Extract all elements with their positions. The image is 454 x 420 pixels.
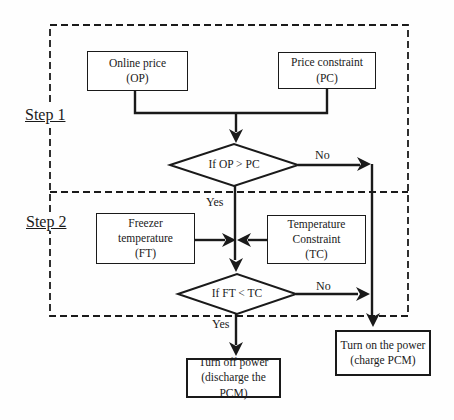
arrowhead-into-decision2 (229, 258, 243, 272)
freezer-temperature-box: Freezer temperature (FT) (96, 213, 195, 264)
yes-label-decision1: Yes (206, 195, 223, 210)
online-price-box: Online price (OP) (87, 51, 188, 91)
flow-line-merge-op-pc (135, 89, 327, 113)
step1-label: Step 1 (22, 106, 68, 124)
freezer-temperature-line2: temperature (118, 231, 173, 246)
arrowhead-no2 (356, 287, 370, 301)
turn-on-power-box: Turn on the power (charge PCM) (335, 330, 431, 376)
decision1-label: If OP > PC (174, 158, 294, 170)
online-price-line1: Online price (109, 56, 166, 71)
turn-on-power-line2: (charge PCM) (350, 353, 415, 368)
temperature-constraint-line2: Constraint (293, 232, 341, 247)
temperature-constraint-box: Temperature Constraint (TC) (267, 215, 366, 264)
price-constraint-box: Price constraint (PC) (278, 52, 376, 89)
step2-label: Step 2 (23, 213, 69, 231)
turn-off-power-line1: Turn off power (199, 355, 269, 370)
temperature-constraint-line1: Temperature (288, 217, 346, 232)
freezer-temperature-line3: (FT) (135, 246, 156, 261)
freezer-temperature-line1: Freezer (128, 216, 162, 231)
temperature-constraint-line3: (TC) (305, 247, 327, 262)
no-label-decision1: No (315, 148, 330, 163)
no-label-decision2: No (316, 279, 331, 294)
turn-off-power-line2: (discharge the PCM) (188, 370, 279, 400)
flowchart-canvas: Step 1 Step 2 Online price (OP) Price co… (0, 0, 454, 420)
turn-on-power-line1: Turn on the power (341, 338, 426, 353)
price-constraint-line2: (PC) (316, 71, 338, 86)
turn-off-power-box: Turn off power (discharge the PCM) (186, 358, 281, 398)
decision2-label: If FT < TC (177, 287, 297, 299)
price-constraint-line1: Price constraint (291, 55, 363, 70)
online-price-line2: (OP) (126, 71, 148, 86)
yes-label-decision2: Yes (212, 317, 229, 332)
